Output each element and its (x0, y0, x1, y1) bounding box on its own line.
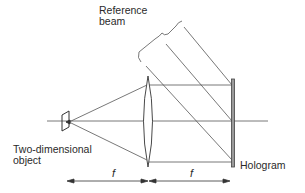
focal-dimension-left (67, 179, 148, 183)
focal-length-label-left: f (112, 167, 115, 179)
focal-dimension-right (149, 179, 230, 183)
object-label: Two-dimensional object (13, 144, 92, 166)
hologram-plate (232, 79, 235, 167)
reference-beam-label: Reference beam (99, 5, 147, 27)
reference-ray-2 (166, 44, 232, 121)
hologram-label: Hologram (240, 160, 286, 171)
reference-ray-3 (146, 66, 232, 160)
reference-beam-brace (138, 21, 182, 62)
focal-length-label-right: f (190, 167, 193, 179)
reference-beam-label-line2: beam (99, 16, 147, 27)
reference-ray-1 (184, 27, 232, 85)
object-label-line2: object (13, 155, 92, 166)
lens-icon (144, 76, 153, 167)
object-ray-upper (69, 85, 147, 122)
